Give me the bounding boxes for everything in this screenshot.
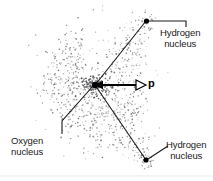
- hydrogen-nucleus-bottom: [143, 157, 148, 162]
- label-line-1: Oxygen: [11, 136, 43, 147]
- hydrogen-nucleus-top: [144, 18, 149, 23]
- label-oxygen-nucleus: Oxygen nucleus: [11, 136, 43, 157]
- dipole-arrowhead-hollow-right: [136, 80, 146, 90]
- label-dipole-vector-p: p: [148, 77, 155, 89]
- leader-hydrogen-bottom: [148, 146, 168, 159]
- label-line-1: Hydrogen: [160, 28, 200, 39]
- label-hydrogen-nucleus-top: Hydrogen nucleus: [160, 28, 200, 49]
- figure-canvas: Hydrogen nucleus Hydrogen nucleus Oxygen…: [0, 0, 213, 181]
- label-line-2: nucleus: [11, 147, 43, 158]
- oxygen-nucleus: [92, 82, 98, 88]
- label-line-1: Hydrogen: [166, 140, 206, 151]
- label-line-2: nucleus: [160, 39, 200, 50]
- dipole-moment-arrow: [94, 80, 146, 90]
- label-hydrogen-nucleus-bottom: Hydrogen nucleus: [166, 140, 206, 161]
- bond-oxygen-hydrogen-top: [95, 21, 146, 85]
- label-line-2: nucleus: [166, 151, 206, 162]
